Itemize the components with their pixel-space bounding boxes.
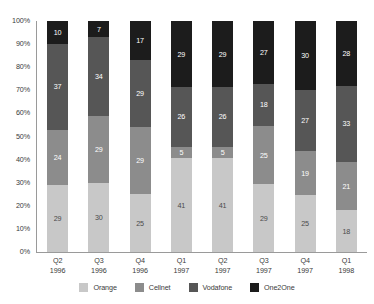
x-axis-year: 1996	[78, 266, 119, 276]
bar-segment-value: 26	[219, 113, 227, 120]
bar-segment[interactable]: 21	[336, 162, 357, 211]
bar-segment[interactable]: 29	[253, 184, 274, 252]
bar-segment-value: 7	[97, 26, 101, 33]
x-axis-year: 1997	[161, 266, 202, 276]
bar-segment-value: 41	[177, 202, 185, 209]
bar-segment-value: 29	[95, 146, 103, 153]
y-axis-tick-label: 50%	[16, 133, 30, 140]
legend-swatch-icon	[189, 283, 198, 292]
bar-segment[interactable]: 26	[212, 87, 233, 146]
bar-segment-value: 37	[54, 83, 62, 90]
bar-segment-value: 19	[301, 170, 309, 177]
bar-segment[interactable]: 24	[47, 130, 68, 185]
bar-segment[interactable]: 41	[212, 158, 233, 252]
bar-segment-value: 30	[95, 214, 103, 221]
bar-segment[interactable]: 41	[171, 158, 192, 252]
bar-segment-value: 41	[219, 202, 227, 209]
bar-stack[interactable]: 27182529	[253, 21, 274, 252]
bar-stack[interactable]: 2926541	[212, 21, 233, 252]
bar-stack[interactable]: 17292925	[130, 21, 151, 252]
bar-segment[interactable]: 18	[253, 84, 274, 126]
y-axis-tick-label: 60%	[16, 110, 30, 117]
bar-segment[interactable]: 30	[88, 183, 109, 252]
bar-segment[interactable]: 7	[88, 21, 109, 37]
bar-segment[interactable]: 27	[253, 21, 274, 84]
bar-segment[interactable]: 29	[130, 127, 151, 194]
x-axis-tick-label: Q41996	[120, 256, 161, 275]
bar-segment-value: 5	[221, 149, 225, 156]
x-axis-tick-label: Q21997	[202, 256, 243, 275]
legend-swatch-icon	[79, 283, 88, 292]
bar-segment[interactable]: 25	[130, 194, 151, 252]
stacked-bar-chart: 100%90%80%70%60%50%40%30%20%10%0% 103724…	[0, 0, 374, 304]
legend-item[interactable]: One2One	[250, 283, 294, 292]
bar-segment[interactable]: 29	[88, 116, 109, 183]
bar-segment[interactable]: 17	[130, 21, 151, 60]
x-axis-quarter: Q4	[285, 256, 326, 266]
legend-item[interactable]: Orange	[79, 283, 116, 292]
bar-column: 2926541	[161, 21, 202, 252]
bar-segment-value: 29	[219, 51, 227, 58]
x-axis-year: 1996	[37, 266, 78, 276]
x-axis-quarter: Q1	[326, 256, 367, 266]
bar-stack[interactable]: 30271925	[295, 21, 316, 252]
y-axis-tick-label: 0%	[20, 248, 30, 255]
bar-column: 7342930	[78, 21, 119, 252]
bar-segment-value: 29	[177, 51, 185, 58]
bar-segment-value: 5	[179, 149, 183, 156]
y-axis: 100%90%80%70%60%50%40%30%20%10%0%	[0, 21, 33, 253]
x-axis-quarter: Q2	[37, 256, 78, 266]
bar-segment[interactable]: 5	[171, 147, 192, 158]
x-axis-year: 1996	[120, 266, 161, 276]
bar-segment[interactable]: 18	[336, 210, 357, 252]
bar-segment[interactable]: 10	[47, 21, 68, 44]
legend-swatch-icon	[135, 283, 144, 292]
bar-segment-value: 18	[342, 228, 350, 235]
bar-segment-value: 25	[136, 220, 144, 227]
x-axis-tick-label: Q31996	[78, 256, 119, 275]
bar-segment[interactable]: 33	[336, 86, 357, 162]
bar-segment[interactable]: 28	[336, 21, 357, 86]
legend-label: One2One	[264, 284, 294, 291]
bar-segment[interactable]: 19	[295, 151, 316, 194]
bar-segment[interactable]: 26	[171, 87, 192, 146]
bar-segment[interactable]: 5	[212, 147, 233, 158]
bar-segment[interactable]: 25	[253, 126, 274, 184]
bar-segment-value: 27	[301, 117, 309, 124]
bar-segment[interactable]: 29	[47, 185, 68, 252]
bar-segment[interactable]: 34	[88, 37, 109, 116]
bar-segment[interactable]: 27	[295, 90, 316, 152]
chart-legend: OrangeCellnetVodafoneOne2One	[0, 283, 374, 292]
legend-label: Cellnet	[149, 284, 171, 291]
x-axis-year: 1997	[243, 266, 284, 276]
y-axis-tick-label: 70%	[16, 87, 30, 94]
bar-segment[interactable]: 37	[47, 44, 68, 129]
bar-segment-value: 24	[54, 154, 62, 161]
bar-column: 17292925	[120, 21, 161, 252]
bar-segment[interactable]: 29	[212, 21, 233, 87]
legend-item[interactable]: Cellnet	[135, 283, 171, 292]
bar-segment[interactable]: 25	[295, 195, 316, 252]
bar-segment-value: 29	[136, 157, 144, 164]
bar-column: 28332118	[326, 21, 367, 252]
y-axis-tick-label: 30%	[16, 179, 30, 186]
bar-segment-value: 21	[342, 183, 350, 190]
y-axis-tick-label: 20%	[16, 202, 30, 209]
bar-segment[interactable]: 29	[130, 60, 151, 127]
legend-item[interactable]: Vodafone	[189, 283, 233, 292]
bar-stack[interactable]: 2926541	[171, 21, 192, 252]
bar-segment-value: 28	[342, 50, 350, 57]
bars-layer: 1037242973429301729292529265412926541271…	[37, 21, 367, 252]
bar-segment[interactable]: 30	[295, 21, 316, 90]
bar-segment-value: 25	[260, 152, 268, 159]
bar-segment-value: 30	[301, 52, 309, 59]
bar-segment-value: 29	[136, 90, 144, 97]
bar-stack[interactable]: 10372429	[47, 21, 68, 252]
bar-stack[interactable]: 7342930	[88, 21, 109, 252]
x-axis-quarter: Q3	[78, 256, 119, 266]
x-axis-tick-label: Q21996	[37, 256, 78, 275]
x-axis-year: 1997	[202, 266, 243, 276]
bar-stack[interactable]: 28332118	[336, 21, 357, 252]
y-axis-tick-label: 40%	[16, 156, 30, 163]
bar-segment[interactable]: 29	[171, 21, 192, 87]
